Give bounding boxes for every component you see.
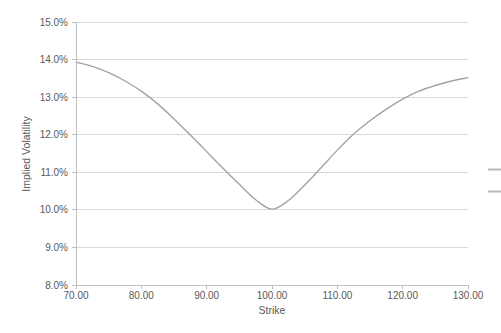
volatility-smile-chart[interactable]: 8.0%9.0%10.0%11.0%12.0%13.0%14.0%15.0%70… — [0, 0, 501, 333]
y-tick-label: 9.0% — [45, 242, 68, 253]
x-tick-label: 120.00 — [387, 290, 418, 301]
x-tick-label: 80.00 — [129, 290, 154, 301]
x-tick-label: 110.00 — [322, 290, 352, 301]
x-tick-label: 70.00 — [63, 290, 88, 301]
y-tick-label: 13.0% — [40, 92, 68, 103]
y-axis-title: Implied Volatility — [20, 116, 32, 192]
x-tick-label: 100.00 — [257, 290, 288, 301]
y-tick-label: 10.0% — [40, 204, 68, 215]
series-line-implied-volatility-smile[interactable] — [76, 62, 468, 209]
y-tick-label: 8.0% — [45, 280, 68, 291]
y-tick-label: 14.0% — [40, 54, 68, 65]
y-tick-label: 12.0% — [40, 129, 68, 140]
chart-area: 8.0%9.0%10.0%11.0%12.0%13.0%14.0%15.0%70… — [0, 0, 501, 333]
y-tick-label: 11.0% — [40, 167, 68, 178]
x-axis-title: Strike — [259, 304, 286, 316]
y-tick-label: 15.0% — [40, 17, 68, 28]
x-tick-label: 130.00 — [453, 290, 484, 301]
x-tick-label: 90.00 — [194, 290, 219, 301]
